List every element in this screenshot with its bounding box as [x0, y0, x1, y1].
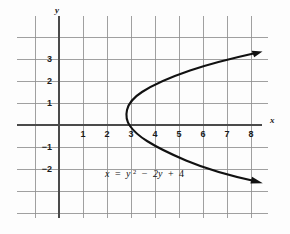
equation-plus: + — [168, 168, 174, 179]
y-tick-label: 1 — [47, 98, 52, 108]
equation-term2: 2y — [153, 168, 163, 179]
y-tick-label: 2 — [47, 76, 52, 86]
x-axis-label: x — [269, 115, 275, 125]
y-tick-label: −1 — [42, 142, 52, 152]
x-tick-label: 1 — [80, 129, 85, 139]
coordinate-plane-chart: y x 1 2 3 4 5 6 7 8 3 2 1 −1 −2 — [0, 0, 290, 234]
x-tick-label: 8 — [248, 129, 253, 139]
equation-term1-base: y — [125, 168, 131, 179]
y-tick-label: 3 — [47, 54, 52, 64]
equation-term3: 4 — [179, 168, 184, 179]
equation-lhs: x — [104, 168, 110, 179]
equation-equals: = — [115, 168, 121, 179]
y-tick-label: −2 — [42, 164, 52, 174]
x-tick-label: 4 — [152, 129, 157, 139]
x-tick-label: 7 — [224, 129, 229, 139]
equation-term1-exponent: 2 — [133, 168, 136, 175]
chart-background — [0, 0, 290, 234]
x-tick-label: 6 — [200, 129, 205, 139]
graph-figure: y x 1 2 3 4 5 6 7 8 3 2 1 −1 −2 — [0, 0, 290, 234]
x-tick-label: 5 — [176, 129, 181, 139]
equation-minus: − — [142, 168, 148, 179]
x-tick-label: 2 — [104, 129, 109, 139]
